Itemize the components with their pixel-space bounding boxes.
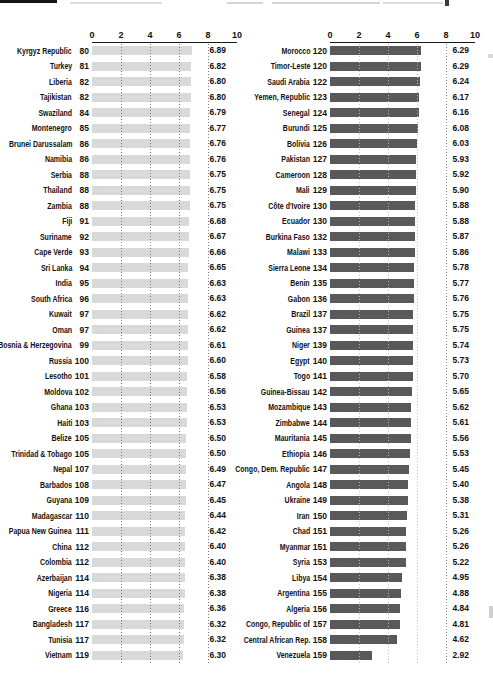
rank-label: 150	[312, 511, 327, 521]
value-label: 6.29	[452, 43, 469, 59]
chart-row-label: Kyrgyz Republic80	[0, 43, 92, 59]
value-label: 5.74	[452, 338, 469, 354]
chart-row-label: Ecuador130	[246, 214, 330, 230]
chart-row: 6.30	[92, 648, 237, 664]
chart-row: 5.93	[330, 152, 475, 168]
page-crop-artifact-line	[227, 2, 263, 4]
value-label: 6.75	[209, 183, 226, 199]
score-bar	[92, 620, 184, 629]
chart-row-label: Thailand88	[0, 183, 92, 199]
country-label: Oman	[52, 325, 72, 335]
score-bar	[330, 356, 413, 365]
rank-label: 145	[312, 433, 327, 443]
country-label: Benin	[291, 278, 310, 288]
value-label: 6.45	[209, 493, 226, 509]
value-label: 5.62	[452, 400, 469, 416]
score-bar	[92, 186, 190, 195]
country-label: Congo, Republic of	[246, 619, 310, 629]
country-label: Tajikistan	[40, 92, 72, 102]
chart-row-label: Liberia82	[0, 74, 92, 90]
gridline	[150, 44, 151, 663]
country-label: Mauritania	[275, 433, 310, 443]
score-bar	[92, 279, 188, 288]
chart-row-label: Vietnam119	[0, 648, 92, 664]
plot-body: 6.296.296.246.176.166.086.035.935.925.90…	[330, 43, 475, 663]
country-label: Suriname	[40, 232, 72, 242]
value-label: 6.40	[209, 539, 226, 555]
country-label: Myanmar	[279, 542, 310, 552]
chart-row-label: Sierra Leone134	[246, 260, 330, 276]
country-label: Zambia	[48, 201, 72, 211]
rank-label: 94	[74, 263, 89, 273]
score-bar	[92, 434, 186, 443]
chart-row-label: Swaziland84	[0, 105, 92, 121]
country-label: Malawi	[287, 247, 310, 257]
chart-row-label: Bosnia & Herzegovina99	[0, 338, 92, 354]
axis-tick-label: 2	[356, 30, 361, 40]
score-bar	[330, 651, 372, 660]
chart-row: 6.66	[92, 245, 237, 261]
score-bar	[92, 93, 191, 102]
value-label: 6.38	[209, 586, 226, 602]
chart-row: 6.03	[330, 136, 475, 152]
chart-row: 6.47	[92, 477, 237, 493]
country-label: Ecuador	[282, 216, 310, 226]
chart-row: 6.50	[92, 431, 237, 447]
score-bar	[92, 77, 191, 86]
value-label: 5.45	[452, 462, 469, 478]
chart-row-label: Chad151	[246, 524, 330, 540]
score-bar	[92, 217, 189, 226]
country-label: Central African Rep.	[243, 635, 310, 645]
chart-row: 6.24	[330, 74, 475, 90]
country-label: Vietnam	[45, 650, 72, 660]
rank-label: 130	[312, 201, 327, 211]
score-bar	[330, 527, 406, 536]
country-label: Turkey	[50, 61, 72, 71]
chart-row-label: Niger139	[246, 338, 330, 354]
score-bar	[92, 201, 190, 210]
value-label: 5.92	[452, 167, 469, 183]
value-label: 4.84	[452, 601, 469, 617]
chart-row-label: Gabon136	[246, 291, 330, 307]
chart-row-label: Congo, Republic of157	[246, 617, 330, 633]
value-label: 6.75	[209, 167, 226, 183]
score-bar	[92, 356, 188, 365]
axis-tick-label: 4	[385, 30, 390, 40]
chart-row-label: Morocco120	[246, 43, 330, 59]
chart-row: 6.40	[92, 555, 237, 571]
gridline	[417, 44, 418, 663]
country-label: Egypt	[291, 356, 310, 366]
score-bar	[330, 217, 415, 226]
rank-label: 103	[74, 402, 89, 412]
rank-label: 100	[74, 356, 89, 366]
chart-row-label: Pakistan127	[246, 152, 330, 168]
value-label: 5.77	[452, 276, 469, 292]
chart-row: 6.77	[92, 121, 237, 137]
chart-row: 5.92	[330, 167, 475, 183]
chart-row: 6.61	[92, 338, 237, 354]
chart-row-label: Serbia88	[0, 167, 92, 183]
rank-label: 124	[312, 108, 327, 118]
country-label: Kuwait	[49, 309, 72, 319]
value-label: 4.62	[452, 632, 469, 648]
rank-label: 109	[74, 495, 89, 505]
chart-row-label: Sri Lanka94	[0, 260, 92, 276]
chart-row: 6.32	[92, 632, 237, 648]
rank-label: 147	[312, 464, 327, 474]
rank-label: 114	[74, 588, 89, 598]
rank-label: 134	[312, 263, 327, 273]
rank-label: 112	[74, 542, 89, 552]
score-bar	[330, 263, 414, 272]
chart-row: 5.61	[330, 415, 475, 431]
country-label: Colombia	[40, 557, 72, 567]
rank-label: 82	[74, 77, 89, 87]
country-label: Liberia	[49, 77, 72, 87]
value-label: 5.75	[452, 322, 469, 338]
value-label: 2.92	[452, 648, 469, 664]
score-bar	[92, 124, 190, 133]
chart-row-label: Nepal107	[0, 462, 92, 478]
score-bar	[330, 155, 416, 164]
chart-row: 6.82	[92, 59, 237, 75]
chart-row-label: Colombia112	[0, 555, 92, 571]
gridline	[359, 44, 360, 663]
